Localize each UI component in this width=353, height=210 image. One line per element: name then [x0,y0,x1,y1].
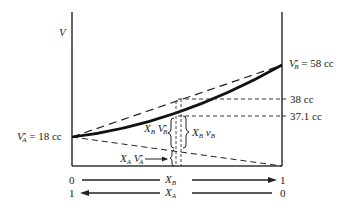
brace-xb-vb [183,116,189,148]
xa-va-line [72,137,282,166]
level-37-1-label: 37.1 cc [290,111,322,122]
xa-va-star-label: XA V•A [120,153,143,166]
xb-arrowhead [268,177,277,183]
xb-start: 0 [69,175,75,186]
brace-xb-vb-star [168,118,174,148]
xb-vb-star-label: XB V•B [144,123,167,136]
xa-start: 1 [69,188,75,199]
xb-end: 1 [280,175,286,186]
level-38-label: 38 cc [290,94,314,105]
xa-end: 0 [280,188,286,199]
xa-arrowhead [80,190,89,196]
right-value-label: V•B = 58 cc [289,58,334,71]
xb-vb-label: XB vB [192,127,215,140]
brace-xa-va-star [170,150,174,166]
xa-axis-label: XA [165,187,176,200]
diagram-canvas [0,0,353,210]
ideal-line [72,65,282,137]
left-value-label: V•A = 18 cc [17,131,62,144]
y-axis-label: V [59,27,66,38]
